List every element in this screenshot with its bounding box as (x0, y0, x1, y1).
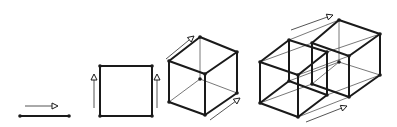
vertex (198, 77, 202, 81)
arrow-shaft (166, 40, 189, 59)
edge (169, 102, 205, 115)
vertex (258, 101, 262, 105)
dimension-progression-diagram (0, 0, 397, 127)
vertex (150, 64, 154, 68)
arrowhead-icon (52, 103, 58, 109)
edge (260, 40, 289, 62)
vertex (337, 18, 341, 22)
vertex (296, 73, 300, 77)
sweep-edge (327, 34, 380, 52)
vertex (378, 73, 382, 77)
arrowhead-icon (91, 74, 97, 80)
vertex (325, 50, 329, 54)
edge (200, 37, 237, 52)
sweep-edge (339, 62, 380, 75)
arrow-shaft (291, 17, 327, 30)
hidden-edge (169, 79, 200, 102)
vertex (287, 38, 291, 42)
vertex (98, 64, 102, 68)
sweep-edge (312, 62, 339, 84)
edge (339, 20, 380, 34)
stage-square (91, 64, 160, 118)
edge (260, 81, 289, 103)
vertex (310, 82, 314, 86)
vertex (67, 114, 71, 118)
arrowhead-icon (326, 14, 333, 20)
sweep-edge (298, 56, 349, 75)
vertex (150, 114, 154, 118)
edge (349, 34, 380, 56)
edge (260, 62, 298, 75)
vertex (98, 114, 102, 118)
stage-segment (18, 103, 71, 118)
vertex (167, 59, 171, 63)
vertex (258, 60, 262, 64)
sweep-edge (289, 20, 339, 40)
vertex (235, 91, 239, 95)
arrow-shaft (210, 102, 235, 120)
vertex (167, 100, 171, 104)
vertex (203, 113, 207, 117)
edge (260, 103, 298, 117)
diagram-canvas (0, 0, 397, 127)
vertex (287, 79, 291, 83)
stage-cube (166, 35, 240, 120)
vertex (310, 41, 314, 45)
edge (312, 20, 339, 43)
vertex (203, 72, 207, 76)
vertex (325, 93, 329, 97)
arrowhead-icon (154, 74, 160, 80)
edge (205, 52, 237, 74)
edge (298, 95, 327, 117)
stage-tesseract (258, 14, 382, 122)
vertex (378, 32, 382, 36)
vertex (296, 115, 300, 119)
arrowhead-icon (340, 105, 347, 111)
sweep-edge (289, 62, 339, 81)
edge (349, 75, 380, 97)
vertex (18, 114, 22, 118)
arrow-shaft (306, 108, 341, 122)
vertex (347, 54, 351, 58)
edge (169, 37, 200, 61)
sweep-edge (260, 43, 312, 62)
vertex (347, 95, 351, 99)
vertex (235, 50, 239, 54)
arrowhead-icon (233, 98, 240, 104)
vertex (337, 60, 341, 64)
vertex (198, 35, 202, 39)
